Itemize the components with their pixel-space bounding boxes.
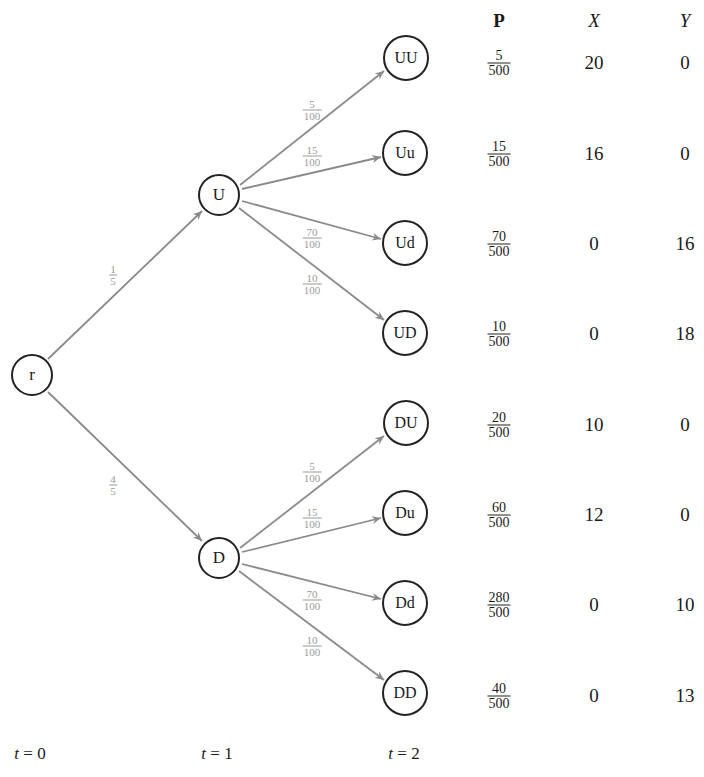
node-root: r bbox=[11, 354, 53, 396]
y-cell: 18 bbox=[676, 323, 695, 345]
tree-edges bbox=[0, 0, 704, 777]
x-cell: 12 bbox=[585, 504, 604, 526]
edge-prob-U-UU: 5100 bbox=[303, 99, 322, 122]
x-cell: 0 bbox=[589, 685, 599, 707]
edge-prob-D-DU: 5100 bbox=[303, 461, 322, 484]
header-x: X bbox=[588, 10, 600, 32]
node-label: Du bbox=[395, 504, 415, 522]
node-label: DU bbox=[394, 414, 417, 432]
y-cell: 13 bbox=[676, 685, 695, 707]
edge-prob-D-Du: 15100 bbox=[303, 507, 322, 530]
edge-prob-r-U: 15 bbox=[109, 264, 117, 287]
header-y: Y bbox=[680, 10, 691, 32]
prob-cell: 60500 bbox=[488, 501, 511, 530]
node-Uu: Uu bbox=[382, 130, 428, 176]
prob-cell: 10500 bbox=[488, 320, 511, 349]
node-label: DD bbox=[393, 684, 416, 702]
edge-r-U bbox=[48, 211, 202, 359]
node-label: U bbox=[213, 185, 225, 205]
edge-D-DU bbox=[240, 436, 384, 548]
node-label: D bbox=[213, 548, 225, 568]
x-cell: 10 bbox=[585, 414, 604, 436]
node-U: U bbox=[198, 174, 240, 216]
y-cell: 0 bbox=[680, 143, 690, 165]
y-cell: 0 bbox=[680, 414, 690, 436]
node-label: UU bbox=[394, 49, 417, 67]
node-label: r bbox=[29, 365, 35, 385]
prob-cell: 5500 bbox=[488, 49, 511, 78]
x-cell: 16 bbox=[585, 143, 604, 165]
x-cell: 0 bbox=[589, 594, 599, 616]
prob-cell: 280500 bbox=[488, 591, 511, 620]
edge-r-D bbox=[48, 392, 202, 541]
node-Dd: Dd bbox=[382, 580, 428, 626]
x-cell: 20 bbox=[585, 52, 604, 74]
node-UU: UU bbox=[383, 35, 429, 81]
y-cell: 0 bbox=[680, 52, 690, 74]
x-cell: 0 bbox=[589, 323, 599, 345]
y-cell: 10 bbox=[676, 594, 695, 616]
header-p: P bbox=[493, 10, 505, 32]
time-label-1: t = 1 bbox=[201, 744, 232, 764]
time-label-0: t = 0 bbox=[14, 744, 45, 764]
edge-prob-U-Ud: 70100 bbox=[303, 227, 322, 250]
node-label: UD bbox=[393, 324, 416, 342]
y-cell: 0 bbox=[680, 504, 690, 526]
x-cell: 0 bbox=[589, 233, 599, 255]
node-Ud: Ud bbox=[382, 220, 428, 266]
time-label-2: t = 2 bbox=[388, 744, 419, 764]
node-D: D bbox=[198, 537, 240, 579]
edge-prob-U-UD: 10100 bbox=[303, 273, 322, 296]
node-UD: UD bbox=[382, 310, 428, 356]
edge-prob-D-Dd: 70100 bbox=[303, 589, 322, 612]
node-label: Uu bbox=[395, 144, 415, 162]
prob-cell: 40500 bbox=[488, 682, 511, 711]
node-DD: DD bbox=[382, 670, 428, 716]
edge-U-UU bbox=[240, 71, 384, 185]
node-DU: DU bbox=[383, 400, 429, 446]
node-label: Dd bbox=[395, 594, 415, 612]
prob-cell: 70500 bbox=[488, 230, 511, 259]
y-cell: 16 bbox=[676, 233, 695, 255]
node-label: Ud bbox=[395, 234, 415, 252]
prob-cell: 15500 bbox=[488, 140, 511, 169]
edge-prob-U-Uu: 15100 bbox=[303, 145, 322, 168]
edge-prob-r-D: 45 bbox=[109, 474, 117, 497]
edge-prob-D-DD: 10100 bbox=[303, 635, 322, 658]
prob-cell: 20500 bbox=[488, 411, 511, 440]
node-Du: Du bbox=[382, 490, 428, 536]
